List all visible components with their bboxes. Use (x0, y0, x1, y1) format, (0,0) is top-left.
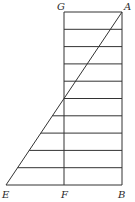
label-E: E (1, 189, 10, 200)
label-A: A (123, 1, 131, 12)
diagram-lines (6, 12, 122, 185)
label-G: G (57, 1, 65, 12)
label-F: F (60, 189, 69, 200)
diagram-labels: G A E F B (1, 1, 131, 200)
label-B: B (117, 189, 125, 200)
geometry-diagram: G A E F B (0, 0, 135, 202)
